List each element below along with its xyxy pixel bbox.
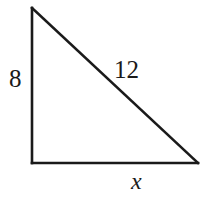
side-label-hypotenuse: 12 (114, 57, 139, 82)
side-label-vertical-leg: 8 (9, 66, 22, 91)
side-label-horizontal-leg: x (131, 169, 142, 193)
right-triangle-figure (0, 0, 210, 199)
